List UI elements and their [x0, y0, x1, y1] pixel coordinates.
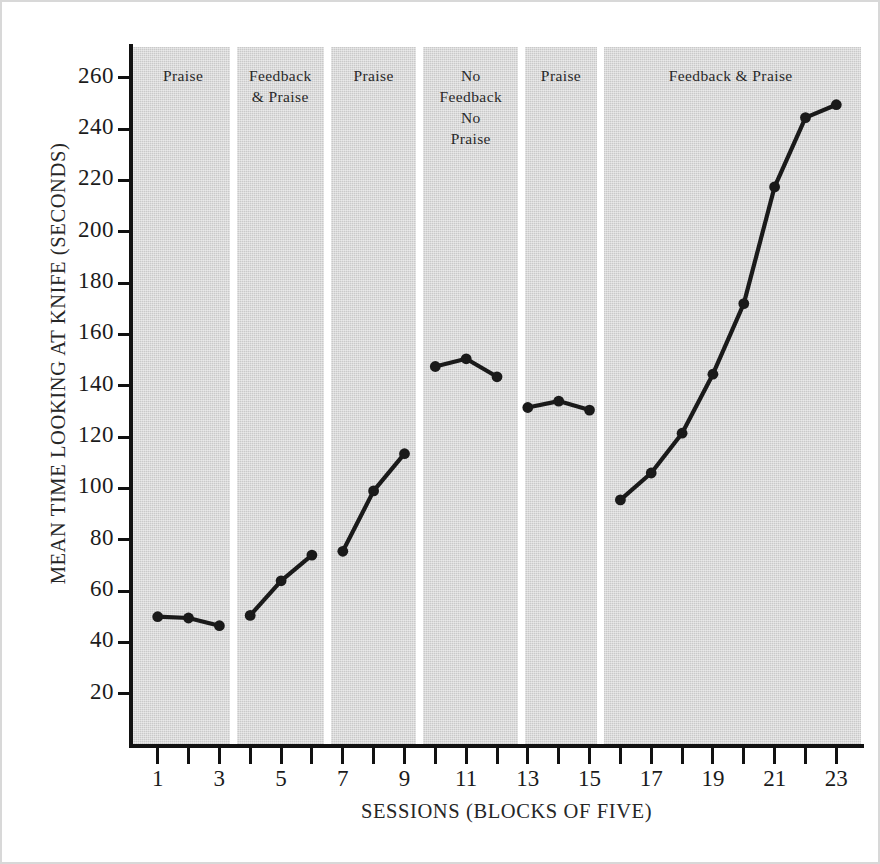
x-tick-11: [465, 748, 468, 764]
phase-separator: [518, 47, 525, 745]
x-tick-5: [280, 748, 283, 764]
y-tick-label-220: 220: [78, 165, 114, 191]
y-tick-label-180: 180: [78, 268, 114, 294]
y-tick-label-100: 100: [78, 473, 114, 499]
x-tick-label-3: 3: [199, 766, 239, 792]
x-tick-label-19: 19: [693, 766, 733, 792]
y-tick-180: [118, 282, 131, 285]
y-tick-100: [118, 487, 131, 490]
phase-label-feedback-praise: Feedback & Praise: [233, 65, 327, 107]
y-tick-80: [118, 538, 131, 541]
x-axis-title: SESSIONS (BLOCKS OF FIVE): [133, 800, 880, 823]
x-tick-18: [681, 748, 684, 764]
phase-label-praise: Praise: [133, 65, 233, 86]
x-tick-8: [372, 748, 375, 764]
y-tick-220: [118, 179, 131, 182]
y-tick-label-240: 240: [78, 114, 114, 140]
x-tick-7: [341, 748, 344, 764]
phase-label-praise: Praise: [522, 65, 601, 86]
x-tick-15: [588, 748, 591, 764]
x-tick-10: [434, 748, 437, 764]
phase-label-praise: Praise: [327, 65, 420, 86]
x-tick-label-17: 17: [631, 766, 671, 792]
x-tick-4: [249, 748, 252, 764]
x-tick-label-13: 13: [508, 766, 548, 792]
y-tick-label-140: 140: [78, 371, 114, 397]
x-tick-2: [187, 748, 190, 764]
x-tick-1: [156, 748, 159, 764]
x-tick-9: [403, 748, 406, 764]
figure-chart-mean-time-looking-at-knife: MEAN TIME LOOKING AT KNIFE (SECONDS) Pra…: [0, 0, 880, 864]
x-tick-label-23: 23: [816, 766, 856, 792]
plot-area: PraiseFeedback & PraisePraiseNo Feedback…: [133, 47, 861, 745]
x-tick-label-5: 5: [261, 766, 301, 792]
x-tick-16: [619, 748, 622, 764]
phase-label-no-feedback-no-praise: No Feedback No Praise: [420, 65, 522, 149]
y-tick-160: [118, 333, 131, 336]
y-tick-label-260: 260: [78, 63, 114, 89]
phase-separator: [597, 47, 604, 745]
x-tick-22: [804, 748, 807, 764]
y-tick-60: [118, 590, 131, 593]
y-tick-240: [118, 128, 131, 131]
y-tick-140: [118, 384, 131, 387]
y-tick-200: [118, 230, 131, 233]
y-tick-40: [118, 641, 131, 644]
x-tick-label-21: 21: [755, 766, 795, 792]
y-tick-260: [118, 76, 131, 79]
x-tick-label-7: 7: [323, 766, 363, 792]
x-tick-21: [773, 748, 776, 764]
phase-label-feedback-praise: Feedback & Praise: [600, 65, 861, 86]
y-tick-label-200: 200: [78, 217, 114, 243]
y-tick-120: [118, 436, 131, 439]
page-edge-top: [0, 0, 880, 2]
x-tick-label-11: 11: [446, 766, 486, 792]
x-tick-12: [496, 748, 499, 764]
phase-separator: [230, 47, 237, 745]
phase-separator: [416, 47, 423, 745]
x-tick-17: [650, 748, 653, 764]
x-tick-19: [711, 748, 714, 764]
x-tick-label-9: 9: [384, 766, 424, 792]
y-axis-title: MEAN TIME LOOKING AT KNIFE (SECONDS): [47, 44, 70, 684]
x-tick-6: [310, 748, 313, 764]
x-tick-3: [218, 748, 221, 764]
x-tick-label-15: 15: [570, 766, 610, 792]
page-edge-left: [0, 0, 2, 864]
y-tick-label-60: 60: [90, 576, 114, 602]
x-tick-label-1: 1: [138, 766, 178, 792]
x-tick-23: [835, 748, 838, 764]
y-tick-label-20: 20: [90, 679, 114, 705]
x-tick-13: [526, 748, 529, 764]
y-tick-20: [118, 692, 131, 695]
y-tick-label-160: 160: [78, 319, 114, 345]
y-tick-label-80: 80: [90, 525, 114, 551]
x-tick-14: [557, 748, 560, 764]
y-tick-label-40: 40: [90, 627, 114, 653]
y-tick-label-120: 120: [78, 422, 114, 448]
x-tick-20: [742, 748, 745, 764]
phase-separator: [324, 47, 331, 745]
